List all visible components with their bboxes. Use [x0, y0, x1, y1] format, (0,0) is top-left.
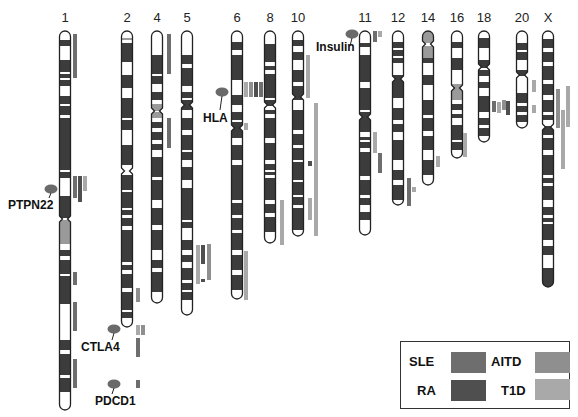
chromosome-band	[543, 126, 554, 135]
chromosome-14	[423, 31, 434, 185]
chromosome-12	[393, 31, 404, 205]
chromosome-band	[232, 218, 243, 230]
chromosome-band	[122, 265, 133, 270]
linkage-region-t1d	[244, 251, 248, 300]
chromosome-band	[232, 42, 243, 50]
gene-marker-pdcd1	[108, 380, 121, 395]
chromosome-band	[393, 108, 404, 120]
chromosome-band	[152, 55, 163, 74]
chromosome-band	[152, 260, 163, 268]
chromosome-band	[122, 192, 133, 208]
chromosome-band	[452, 42, 463, 48]
linkage-region-t1d	[378, 31, 382, 37]
linkage-region-sle	[136, 338, 140, 357]
chromosome-band	[152, 76, 163, 84]
chromosome-band	[543, 115, 554, 120]
chromosome-band	[393, 170, 404, 180]
chromosome-label-10: 10	[286, 10, 310, 25]
chromosome-band	[122, 75, 133, 88]
chromosome-band	[393, 124, 404, 132]
linkage-region-t1d	[532, 80, 536, 92]
chromosome-band	[182, 92, 193, 98]
chromosome-band	[452, 84, 463, 92]
chromosome-band	[182, 100, 193, 110]
chromosome-band	[182, 68, 193, 86]
legend-swatch-sle	[451, 352, 486, 373]
chromosome-band	[60, 220, 71, 244]
chromosome-band	[393, 185, 404, 200]
gene-marker-hla	[216, 88, 229, 111]
legend-swatch-t1d	[535, 379, 570, 400]
chromosome-band	[265, 110, 276, 114]
chromosome-band	[60, 118, 71, 170]
chromosome-5	[182, 31, 193, 315]
chromosome-band	[182, 188, 193, 220]
linkage-region-sle	[259, 82, 263, 97]
linkage-region-aitd	[207, 244, 211, 280]
chromosome-band	[423, 100, 434, 115]
linkage-region-t1d	[136, 325, 140, 335]
chromosome-band	[122, 120, 133, 130]
linkage-region-t1d	[196, 245, 200, 284]
linkage-region-t1d	[306, 55, 310, 98]
chromosome-band	[152, 272, 163, 292]
chromosome-band	[122, 292, 133, 310]
linkage-region-ra	[254, 82, 258, 97]
chromosome-band	[452, 92, 463, 100]
chromosome-label-6: 6	[225, 10, 249, 25]
chromosome-band	[393, 140, 404, 160]
chromosome-18	[479, 31, 490, 142]
chromosome-label-1: 1	[53, 10, 77, 25]
linkage-region-aitd	[556, 89, 560, 128]
chromosome-ideogram-figure: 12456810111214161820X PTPN22HLAInsulinCT…	[0, 0, 578, 417]
legend-label-aitd: AITD	[491, 354, 521, 369]
chromosome-band	[152, 180, 163, 200]
chromosome-label-2: 2	[115, 10, 139, 25]
gene-label-hla: HLA	[203, 111, 228, 125]
chromosome-band	[265, 74, 276, 98]
chromosome-band	[182, 283, 193, 290]
chromosome-band	[122, 230, 133, 262]
chromosome-band	[423, 160, 434, 175]
chromosome-band	[182, 152, 193, 160]
linkage-region-sle	[378, 153, 382, 173]
linkage-region-aitd	[249, 82, 253, 97]
chromosome-band	[182, 255, 193, 262]
chromosome-band	[182, 268, 193, 280]
chromosome-band	[360, 142, 371, 148]
chromosome-8	[265, 31, 276, 243]
linkage-region-sle	[167, 34, 171, 74]
chromosome-band	[60, 40, 71, 46]
chromosome-band	[543, 138, 554, 150]
chromosome-band	[479, 70, 490, 76]
chromosome-band	[60, 260, 71, 274]
chromosome-band	[265, 217, 276, 232]
chromosome-band	[232, 203, 243, 215]
chromosome-band	[152, 122, 163, 128]
chromosome-band	[122, 312, 133, 318]
chromosome-band	[122, 218, 133, 226]
chromosome-band	[360, 43, 371, 47]
chromosome-band	[423, 58, 434, 63]
chromosome-band	[60, 96, 71, 104]
linkage-region-t1d	[308, 198, 312, 220]
linkage-region-ra	[201, 279, 205, 282]
gene-label-insulin: Insulin	[316, 40, 355, 54]
chromosome-band	[293, 162, 304, 180]
chromosome-band	[543, 207, 554, 215]
chromosome-band	[543, 39, 554, 48]
chromosome-band	[265, 118, 276, 138]
chromosome-band	[122, 38, 133, 40]
chromosome-band	[360, 198, 371, 205]
chromosome-band	[517, 93, 528, 103]
linkage-region-sle	[167, 118, 171, 148]
linkage-region-sle	[73, 34, 77, 78]
chromosome-band	[152, 157, 163, 177]
chromosome-band	[152, 132, 163, 140]
chromosome-label-8: 8	[258, 10, 282, 25]
chromosome-band	[517, 52, 528, 60]
chromosome-11	[360, 31, 371, 235]
chromosome-band	[232, 145, 243, 160]
chromosome-band	[452, 58, 463, 70]
linkage-region-t1d	[83, 176, 87, 191]
